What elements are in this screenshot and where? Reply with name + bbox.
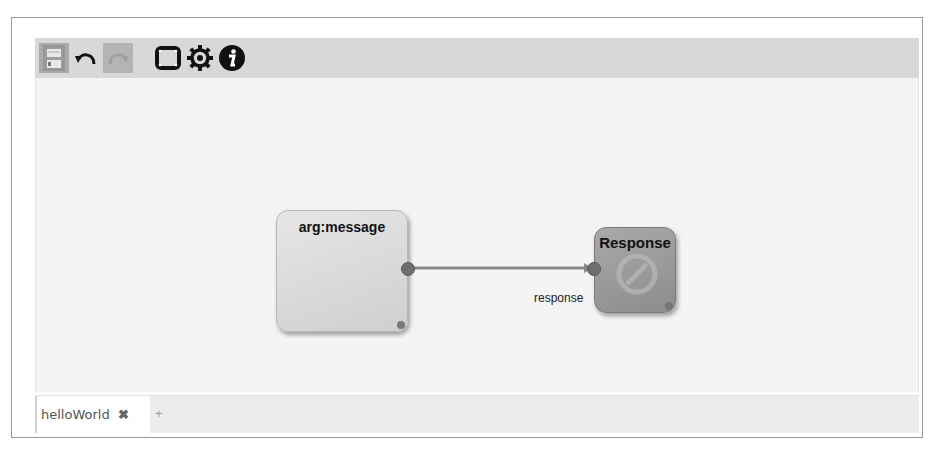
tab-label: helloWorld <box>41 407 110 422</box>
info-button[interactable] <box>217 43 247 73</box>
node-arg-message[interactable]: arg:message <box>276 210 408 332</box>
save-button[interactable] <box>39 43 69 73</box>
close-icon[interactable]: ✖ <box>118 407 129 422</box>
output-port[interactable] <box>401 262 415 276</box>
flow-editor: arg:message response Response helloWorld… <box>35 38 919 434</box>
edge-connector <box>36 78 920 392</box>
save-icon <box>43 45 65 71</box>
tab-bar: helloWorld ✖ + <box>35 395 919 433</box>
fullscreen-icon <box>155 46 181 70</box>
fullscreen-button[interactable] <box>153 43 183 73</box>
resize-handle[interactable] <box>665 302 673 310</box>
node-title: arg:message <box>277 219 407 235</box>
undo-icon <box>74 48 98 68</box>
flow-canvas[interactable]: arg:message response Response <box>35 78 919 392</box>
info-icon <box>218 44 246 72</box>
input-port[interactable] <box>587 262 601 276</box>
node-title: Response <box>595 234 675 251</box>
edge-label: response <box>534 291 583 305</box>
toolbar <box>35 38 919 78</box>
undo-button[interactable] <box>71 43 101 73</box>
resize-handle[interactable] <box>397 321 405 329</box>
response-icon <box>613 250 661 298</box>
settings-button[interactable] <box>185 43 215 73</box>
redo-button[interactable] <box>103 43 133 73</box>
redo-icon <box>106 48 130 68</box>
gear-icon <box>186 44 214 72</box>
node-response[interactable]: Response <box>594 227 676 313</box>
add-tab-button[interactable]: + <box>155 406 163 421</box>
tab-helloworld[interactable]: helloWorld ✖ <box>35 396 150 433</box>
